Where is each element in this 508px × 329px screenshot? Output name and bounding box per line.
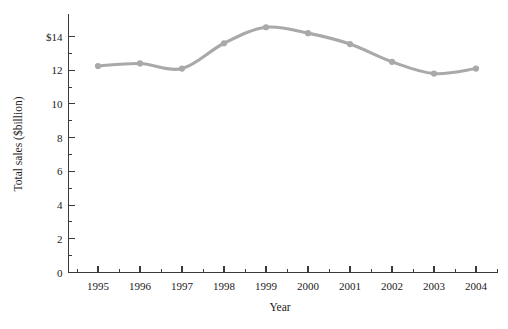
- series-line-total-sales: [98, 27, 476, 74]
- y-tick-label: 10: [52, 98, 64, 110]
- data-point: [389, 59, 395, 65]
- data-series-group: [95, 24, 479, 77]
- x-tick-label: 2000: [297, 280, 320, 292]
- y-tick-label: 2: [57, 233, 63, 245]
- data-point: [179, 65, 185, 71]
- x-axis-title: Year: [269, 301, 290, 313]
- x-axis-tick-labels: 1995199619971998199920002001200220032004: [87, 280, 488, 292]
- x-tick-label: 2004: [465, 280, 488, 292]
- y-axis-tick-labels: 024681012$14: [46, 31, 63, 279]
- x-tick-label: 1998: [213, 280, 236, 292]
- data-point: [305, 30, 311, 36]
- data-point: [95, 63, 101, 69]
- data-point: [137, 60, 143, 66]
- y-tick-label: 8: [57, 132, 63, 144]
- data-point: [347, 41, 353, 47]
- data-point: [263, 24, 269, 30]
- x-tick-label: 2003: [423, 280, 446, 292]
- y-tick-label: 6: [57, 165, 63, 177]
- x-tick-label: 1995: [87, 280, 110, 292]
- y-tick-label: $14: [46, 31, 63, 43]
- axis-group: [69, 14, 499, 273]
- y-tick-label: 0: [57, 267, 63, 279]
- chart-canvas: 024681012$14 199519961997199819992000200…: [0, 0, 508, 329]
- x-tick-label: 1999: [255, 280, 278, 292]
- y-tick-label: 4: [57, 199, 63, 211]
- x-tick-label: 1996: [129, 280, 152, 292]
- y-tick-label: 12: [52, 64, 63, 76]
- y-axis-title: Total sales ($billion): [12, 96, 25, 191]
- x-tick-label: 2002: [381, 280, 403, 292]
- series-points-total-sales: [95, 24, 479, 77]
- data-point: [221, 40, 227, 46]
- x-tick-label: 2001: [339, 280, 361, 292]
- line-chart: 024681012$14 199519961997199819992000200…: [0, 0, 508, 329]
- data-point: [431, 70, 437, 76]
- data-point: [473, 65, 479, 71]
- x-tick-label: 1997: [171, 280, 194, 292]
